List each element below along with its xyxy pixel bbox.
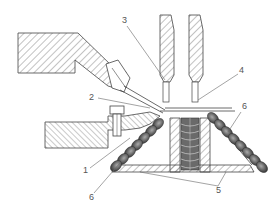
center-spring-stack: [181, 118, 199, 170]
lead-wires: [120, 86, 235, 113]
cross-section-diagram: [0, 0, 279, 211]
vertical-electrodes: [160, 15, 203, 102]
part-label-6-left: 6: [89, 193, 94, 202]
upper-clamp-arm: [18, 33, 130, 92]
part-label-6-right: 6: [242, 102, 247, 111]
part-label-2: 2: [89, 93, 94, 102]
part-label-4: 4: [239, 66, 244, 75]
part-label-5: 5: [216, 186, 221, 195]
part-label-1: 1: [83, 166, 88, 175]
part-label-3: 3: [122, 16, 127, 25]
